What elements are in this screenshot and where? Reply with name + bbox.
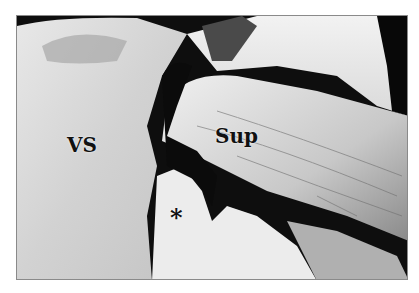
label-vs: VS (67, 133, 97, 157)
label-sup: Sup (215, 124, 258, 148)
specimen-photo: VS Sup * (16, 15, 408, 280)
label-asterisk: * (170, 203, 183, 232)
